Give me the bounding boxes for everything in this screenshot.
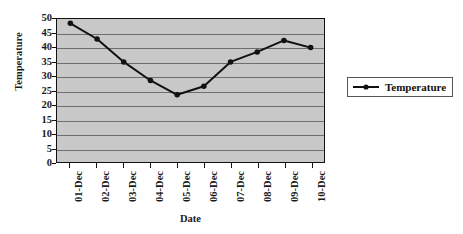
y-tick-label: 0 bbox=[22, 158, 52, 169]
y-tick-label: 20 bbox=[22, 100, 52, 111]
y-tick-mark bbox=[52, 163, 56, 164]
y-tick-label: 45 bbox=[22, 27, 52, 38]
y-tick-label: 5 bbox=[22, 143, 52, 154]
x-tick-label: 09-Dec bbox=[290, 171, 301, 202]
x-tick-mark bbox=[231, 163, 232, 168]
x-tick-mark bbox=[204, 163, 205, 168]
y-tick-label: 25 bbox=[22, 85, 52, 96]
x-tick-label: 07-Dec bbox=[236, 171, 247, 202]
legend-line-marker-icon bbox=[352, 82, 380, 92]
x-tick-label: 05-Dec bbox=[182, 171, 193, 202]
data-point bbox=[201, 83, 207, 89]
data-point bbox=[254, 49, 260, 55]
data-point bbox=[148, 78, 154, 84]
data-point bbox=[281, 38, 287, 44]
x-tick-label: 10-Dec bbox=[317, 171, 328, 202]
y-tick-label: 10 bbox=[22, 129, 52, 140]
data-point bbox=[121, 59, 127, 65]
y-tick-label: 15 bbox=[22, 114, 52, 125]
y-tick-label: 30 bbox=[22, 71, 52, 82]
chart-legend: Temperature bbox=[347, 77, 453, 97]
x-tick-mark bbox=[312, 163, 313, 168]
y-tick-label: 50 bbox=[22, 13, 52, 24]
x-tick-mark bbox=[177, 163, 178, 168]
x-tick-label: 06-Dec bbox=[209, 171, 220, 202]
x-tick-label: 02-Dec bbox=[101, 171, 112, 202]
x-tick-label: 04-Dec bbox=[155, 171, 166, 202]
data-point bbox=[308, 45, 314, 51]
data-point bbox=[228, 59, 234, 65]
data-point bbox=[174, 92, 180, 98]
plot-area bbox=[56, 18, 325, 163]
x-tick-mark bbox=[285, 163, 286, 168]
x-tick-mark bbox=[258, 163, 259, 168]
line-chart-figure: Temperature 50454035302520151050 01-Dec0… bbox=[0, 0, 463, 234]
x-tick-label: 01-Dec bbox=[74, 171, 85, 202]
y-tick-label: 40 bbox=[22, 42, 52, 53]
series-line bbox=[70, 23, 310, 95]
series-temperature bbox=[57, 19, 324, 162]
x-tick-label: 08-Dec bbox=[263, 171, 274, 202]
x-tick-mark bbox=[150, 163, 151, 168]
x-tick-mark bbox=[96, 163, 97, 168]
legend-item-temperature: Temperature bbox=[385, 81, 446, 93]
data-point bbox=[94, 36, 100, 42]
x-tick-label: 03-Dec bbox=[128, 171, 139, 202]
data-point bbox=[68, 21, 74, 27]
y-tick-label: 35 bbox=[22, 56, 52, 67]
x-axis-title: Date bbox=[56, 213, 325, 224]
y-axis-tick-labels: 50454035302520151050 bbox=[22, 18, 52, 163]
x-tick-mark bbox=[69, 163, 70, 168]
x-tick-mark bbox=[123, 163, 124, 168]
